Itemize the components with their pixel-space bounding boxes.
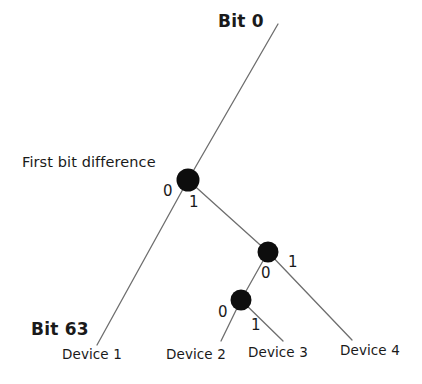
leaf-label-device-2: Device 2 xyxy=(166,348,226,362)
leaf-label-device-3: Device 3 xyxy=(248,346,308,360)
trie-diagram: Bit 0 Bit 63 First bit difference 0 1 0 … xyxy=(0,0,422,384)
leaf-label-device-4: Device 4 xyxy=(340,344,400,358)
edge-label-node2-0: 0 xyxy=(261,266,271,281)
edge-bit0-to-root xyxy=(188,24,278,180)
edge-node2-to-device4 xyxy=(268,252,352,340)
edge-label-node2-1: 1 xyxy=(288,255,298,270)
first-bit-difference-node xyxy=(177,169,200,192)
edge-label-node3-1: 1 xyxy=(251,318,261,333)
third-branch-node xyxy=(231,290,252,311)
edge-label-root-0: 0 xyxy=(163,184,173,199)
edge-label-node3-0: 0 xyxy=(218,305,228,320)
leaf-label-device-1: Device 1 xyxy=(62,348,122,362)
first-bit-difference-label: First bit difference xyxy=(22,155,156,170)
edge-root-to-device1 xyxy=(97,180,188,345)
bit-63-label: Bit 63 xyxy=(31,321,89,338)
second-branch-node xyxy=(258,242,279,263)
edge-root-to-node2 xyxy=(188,180,268,252)
bit-0-label: Bit 0 xyxy=(218,13,264,30)
edge-label-root-1: 1 xyxy=(189,195,199,210)
